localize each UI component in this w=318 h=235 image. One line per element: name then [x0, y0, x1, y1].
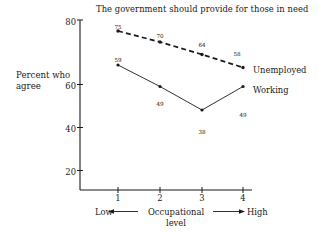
series-working-line [118, 65, 243, 110]
series-unemployed-point-2 [158, 40, 161, 43]
low-arrow-head-icon [108, 209, 114, 214]
series-working-point-3 [200, 108, 203, 111]
plot-area [0, 0, 318, 235]
series-unemployed-point-4 [241, 66, 244, 69]
series-unemployed [116, 29, 244, 69]
series-working-point-1 [116, 63, 119, 66]
axes [80, 20, 252, 190]
chart-figure: The government should provide for those … [0, 0, 318, 235]
series-unemployed-point-1 [116, 29, 119, 32]
series-unemployed-line [118, 31, 243, 68]
x-axis-direction-arrows [108, 209, 245, 214]
series-working-point-4 [241, 85, 244, 88]
series-unemployed-point-3 [200, 53, 203, 56]
high-arrow-head-icon [239, 209, 245, 214]
series-working-point-2 [158, 85, 161, 88]
series-working [116, 63, 244, 111]
